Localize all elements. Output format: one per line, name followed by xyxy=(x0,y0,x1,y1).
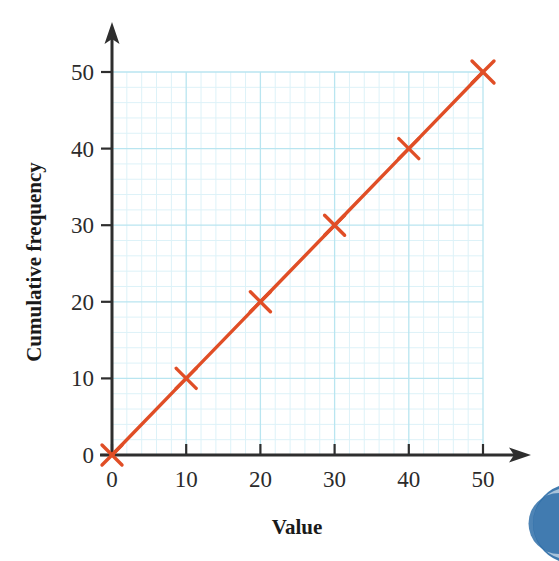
y-tick-label: 40 xyxy=(71,137,94,162)
y-tick-label: 20 xyxy=(71,290,94,315)
y-tick-label: 50 xyxy=(71,60,94,85)
x-tick-label: 0 xyxy=(106,467,118,492)
x-tick-label: 10 xyxy=(175,467,198,492)
x-tick-label: 50 xyxy=(472,467,495,492)
x-tick-label: 30 xyxy=(323,467,346,492)
cumulative-frequency-chart: 0 10 20 30 40 50 0 10 20 30 40 50 xyxy=(0,0,559,561)
y-axis-title: Cumulative frequency xyxy=(22,162,46,362)
y-tick-label: 0 xyxy=(83,443,95,468)
x-axis-title: Value xyxy=(272,515,323,539)
chart-figure: 0 10 20 30 40 50 0 10 20 30 40 50 xyxy=(0,0,559,561)
y-tick-label: 10 xyxy=(71,366,94,391)
x-tick-label: 40 xyxy=(397,467,420,492)
y-tick-label: 30 xyxy=(71,213,94,238)
x-tick-label: 20 xyxy=(249,467,272,492)
